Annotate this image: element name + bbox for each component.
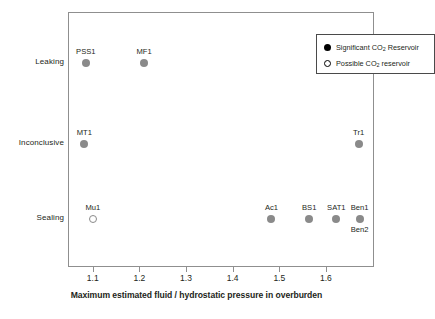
data-point-label: PSS1 [56, 47, 116, 56]
y-axis-label-leaking: Leaking [2, 57, 64, 66]
filled-circle-marker [80, 140, 88, 148]
filled-circle-marker [332, 215, 340, 223]
data-point-label: Ben2 [330, 225, 390, 234]
filled-circle-marker [140, 59, 148, 67]
x-axis-ticks: 1.11.21.31.41.51.6 [68, 267, 374, 273]
y-axis-labels: LeakingInconclusiveSealing [0, 12, 64, 267]
filled-circle-marker [305, 215, 313, 223]
x-axis-title: Maximum estimated fluid / hydrostatic pr… [0, 290, 393, 300]
data-point-label: Tr1 [329, 128, 389, 137]
x-tick-label: 1.2 [119, 273, 159, 283]
data-point-label: Mu1 [63, 203, 123, 212]
x-tick-mark [233, 267, 234, 272]
legend-entry-0[interactable]: Significant CO2 Reservoir [324, 40, 419, 54]
data-point-label: MF1 [114, 47, 174, 56]
x-tick-label: 1.1 [73, 273, 113, 283]
data-point-label: MT1 [54, 128, 114, 137]
x-tick-label: 1.3 [166, 273, 206, 283]
x-tick-label: 1.5 [259, 273, 299, 283]
x-tick-label: 1.4 [213, 273, 253, 283]
filled-circle-icon [324, 44, 331, 51]
x-tick-mark [186, 267, 187, 272]
legend-label: Possible CO2 reservoir [336, 59, 410, 68]
y-axis-label-sealing: Sealing [2, 213, 64, 222]
hollow-circle-icon [324, 60, 331, 67]
filled-circle-marker [82, 59, 90, 67]
filled-circle-marker [267, 215, 275, 223]
legend: Significant CO2 ReservoirPossible CO2 re… [316, 34, 435, 74]
legend-label: Significant CO2 Reservoir [336, 43, 419, 52]
filled-circle-marker [355, 140, 363, 148]
legend-entry-1[interactable]: Possible CO2 reservoir [324, 56, 410, 70]
hollow-circle-marker [89, 215, 97, 223]
x-tick-label: 1.6 [306, 273, 346, 283]
data-point-label: Ben1 [330, 203, 390, 212]
filled-circle-marker [356, 215, 364, 223]
x-tick-mark [93, 267, 94, 272]
x-tick-mark [139, 267, 140, 272]
x-tick-mark [326, 267, 327, 272]
plot-area: Significant CO2 ReservoirPossible CO2 re… [68, 12, 374, 267]
y-axis-label-inconclusive: Inconclusive [2, 138, 64, 147]
x-tick-mark [279, 267, 280, 272]
